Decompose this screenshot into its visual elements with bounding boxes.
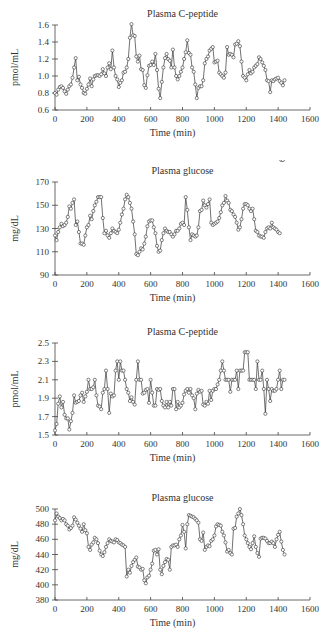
x-tick-label: 1000 [205, 604, 224, 614]
chart-title: Plasma glucose [152, 165, 214, 176]
x-tick-label: 1600 [301, 279, 320, 289]
data-point-markers [53, 351, 286, 432]
x-tick-label: 0 [53, 114, 58, 124]
y-axis-label: mg/dL [9, 541, 20, 568]
data-point-markers [53, 23, 286, 100]
x-tick-label: 1600 [301, 114, 320, 124]
x-tick-label: 800 [176, 279, 190, 289]
chart-panel-1: Plasma C-peptide020040060080010001200140… [0, 0, 329, 160]
x-tick-label: 200 [80, 604, 94, 614]
x-tick-label: 200 [80, 279, 94, 289]
x-tick-label: 800 [176, 114, 190, 124]
chart-title: Plasma C-peptide [147, 8, 218, 19]
x-tick-label: 1400 [269, 279, 288, 289]
x-tick-label: 1200 [237, 604, 256, 614]
y-tick-label: 1.5 [38, 430, 50, 440]
chart-title: Plasma glucose [152, 492, 214, 503]
y-axis-label: mg/dL [9, 215, 20, 242]
x-tick-label: 1400 [269, 439, 288, 449]
data-series-line [55, 352, 285, 430]
x-tick-label: 0 [53, 439, 58, 449]
y-tick-label: 150 [36, 200, 50, 210]
x-axis-label: Time (min) [150, 292, 195, 304]
x-tick-label: 400 [112, 279, 126, 289]
x-tick-label: 1200 [237, 439, 256, 449]
y-tick-label: 0.6 [38, 105, 50, 115]
y-tick-label: 380 [36, 595, 50, 605]
y-tick-label: 130 [36, 224, 50, 234]
x-tick-label: 200 [80, 114, 94, 124]
x-tick-label: 1200 [237, 279, 256, 289]
chart-title: Plasma C-peptide [147, 326, 218, 337]
y-tick-label: 480 [36, 519, 50, 529]
x-tick-label: 400 [112, 114, 126, 124]
x-tick-label: 800 [176, 604, 190, 614]
y-tick-label: 500 [36, 504, 50, 514]
chart-panel-2: Plasma glucose02004006008001000120014001… [0, 160, 329, 320]
y-tick-label: 90 [40, 270, 50, 280]
x-tick-label: 200 [80, 439, 94, 449]
chart-panel-4: Plasma glucose02004006008001000120014001… [0, 480, 329, 640]
x-tick-label: 1400 [269, 604, 288, 614]
x-tick-label: 1200 [237, 114, 256, 124]
x-tick-label: 600 [144, 279, 158, 289]
y-tick-label: 0.8 [38, 88, 50, 98]
x-axis-label: Time (min) [150, 617, 195, 629]
x-tick-label: 1000 [205, 279, 224, 289]
x-tick-label: 800 [176, 439, 190, 449]
y-tick-label: 1.2 [38, 54, 49, 64]
chart-panel-3: Plasma C-peptide020040060080010001200140… [0, 320, 329, 480]
y-tick-label: 2.5 [38, 338, 50, 348]
x-axis-label: Time (min) [150, 127, 195, 139]
x-axis-label: Time (min) [150, 452, 195, 464]
x-tick-label: 0 [53, 279, 58, 289]
y-tick-label: 1.4 [38, 37, 50, 47]
x-tick-label: 600 [144, 604, 158, 614]
y-tick-label: 2.1 [38, 375, 49, 385]
x-tick-label: 0 [53, 604, 58, 614]
y-tick-label: 400 [36, 580, 50, 590]
data-point-markers [53, 507, 286, 585]
y-tick-label: 1.7 [38, 412, 50, 422]
y-tick-label: 1.6 [38, 20, 50, 30]
x-tick-label: 400 [112, 439, 126, 449]
x-tick-label: 1000 [205, 439, 224, 449]
y-tick-label: 1.0 [38, 71, 50, 81]
x-tick-label: 600 [144, 114, 158, 124]
y-tick-label: 2.3 [38, 356, 50, 366]
x-tick-label: 1600 [301, 439, 320, 449]
x-tick-label: 1600 [301, 604, 320, 614]
x-tick-label: 1000 [205, 114, 224, 124]
x-tick-label: 600 [144, 439, 158, 449]
y-tick-label: 460 [36, 534, 50, 544]
y-axis-label: pmol/mL [9, 49, 20, 86]
x-tick-label: 1400 [269, 114, 288, 124]
y-tick-label: 420 [36, 565, 50, 575]
y-axis-label: pmol/mL [9, 370, 20, 407]
x-tick-label: 400 [112, 604, 126, 614]
y-tick-label: 1.9 [38, 393, 50, 403]
y-tick-label: 170 [36, 177, 50, 187]
y-tick-label: 440 [36, 550, 50, 560]
y-tick-label: 110 [36, 247, 50, 257]
